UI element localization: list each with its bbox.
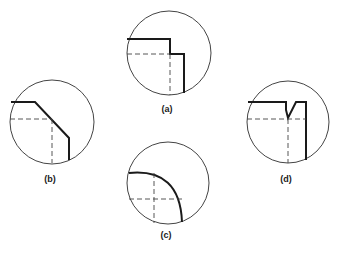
corner-details-diagram	[0, 0, 338, 255]
profile-outline-d	[248, 102, 306, 160]
panel-c	[127, 142, 209, 224]
panel-a	[127, 11, 211, 95]
profile-outline-c	[129, 173, 182, 222]
panel-label-a: (a)	[162, 104, 173, 114]
panel-label-d: (d)	[280, 174, 292, 184]
profile-outline-a	[127, 39, 184, 93]
panel-b	[10, 80, 94, 164]
panel-label-c: (c)	[161, 230, 172, 240]
panel-d	[247, 81, 329, 163]
panel-label-b: (b)	[44, 174, 56, 184]
profile-outline-b	[11, 102, 69, 160]
